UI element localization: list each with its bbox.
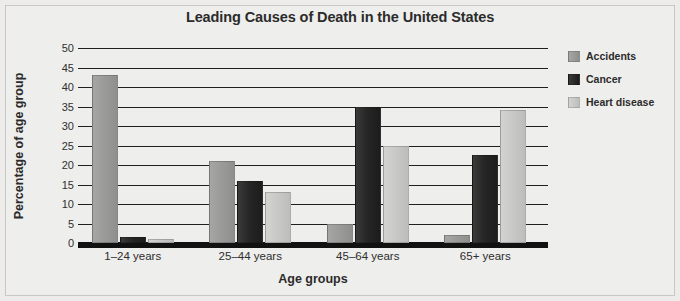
legend-swatch-icon [568,51,580,62]
legend-item-accidents[interactable]: Accidents [568,50,674,62]
legend-swatch-icon [568,74,580,85]
plot-area [78,48,548,243]
bar-cancer-0 [120,237,146,243]
bar-heart-disease-1 [265,192,291,243]
bar-accidents-1 [209,161,235,243]
y-tick-label: 0 [68,237,74,249]
legend-label: Heart disease [586,96,654,108]
x-tick-label: 25–44 years [219,250,282,262]
y-axis-title-text: Percentage of age group [12,72,26,219]
bar-cancer-2 [355,107,381,244]
gridline [78,87,548,88]
x-tick-label: 1–24 years [104,250,161,262]
y-tick-label: 30 [62,120,74,132]
bar-accidents-0 [92,75,118,243]
gridline [78,48,548,49]
y-tick-label: 40 [62,81,74,93]
chart-figure: Leading Causes of Death in the United St… [0,0,680,301]
legend-swatch-icon [568,97,580,108]
y-tick-label: 20 [62,159,74,171]
gridline [78,68,548,69]
legend-item-cancer[interactable]: Cancer [568,73,674,85]
bar-cancer-3 [472,155,498,243]
y-tick-label: 5 [68,218,74,230]
x-tick-label: 65+ years [460,250,511,262]
gridline [78,146,548,147]
chart-title: Leading Causes of Death in the United St… [0,9,680,25]
y-axis-title: Percentage of age group [8,48,30,243]
y-tick-label: 25 [62,140,74,152]
y-tick-label: 50 [62,42,74,54]
gridline [78,107,548,108]
gridline [78,126,548,127]
x-tick-label: 45–64 years [336,250,399,262]
x-axis-tick-labels: 1–24 years25–44 years45–64 years65+ year… [78,250,548,266]
bar-heart-disease-2 [383,146,409,244]
bar-cancer-1 [237,181,263,243]
bar-accidents-3 [444,235,470,243]
y-tick-label: 10 [62,198,74,210]
x-axis-title: Age groups [78,272,548,286]
legend-label: Cancer [586,73,622,85]
y-axis-tick-labels: 50454035302520151050 [48,48,74,243]
bar-heart-disease-0 [148,239,174,243]
y-tick-label: 15 [62,179,74,191]
y-tick-label: 35 [62,101,74,113]
bar-heart-disease-3 [500,110,526,243]
legend-label: Accidents [586,50,636,62]
y-tick-label: 45 [62,62,74,74]
legend-item-heart-disease[interactable]: Heart disease [568,96,674,108]
chart-legend: AccidentsCancerHeart disease [568,50,674,119]
bar-accidents-2 [327,224,353,244]
